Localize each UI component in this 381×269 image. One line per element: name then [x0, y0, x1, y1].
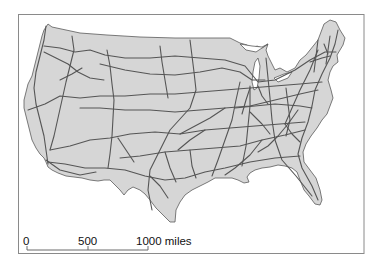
- scale-label-0: 0: [23, 236, 29, 248]
- us-highway-map: [0, 0, 381, 269]
- scale-label-1000-miles: 1000 miles: [136, 236, 192, 248]
- us-landmass: [24, 20, 345, 222]
- scale-label-500: 500: [78, 236, 97, 248]
